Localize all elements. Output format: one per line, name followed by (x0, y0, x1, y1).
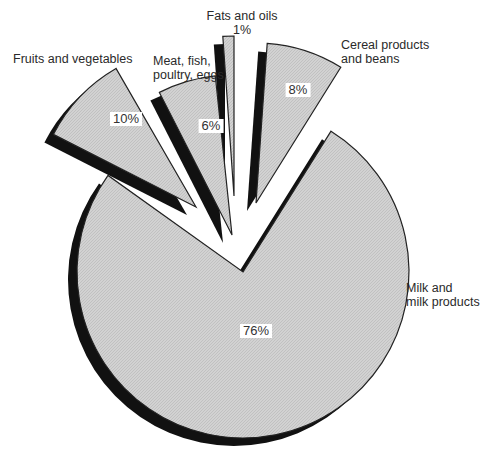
label-fruits-and-vegetables: Fruits and vegetables (13, 52, 133, 66)
label-cereal-line2: and beans (341, 52, 429, 66)
label-meat-line1: Meat, fish, (153, 54, 224, 68)
label-fats-line1: Fats and oils (205, 9, 279, 23)
label-fruits-line1: Fruits and vegetables (13, 52, 133, 66)
label-meat-fish-poultry-eggs: Meat, fish, poultry, eggs (153, 54, 224, 82)
pct-meat: 6% (199, 119, 224, 133)
label-meat-line2: poultry, eggs (153, 68, 224, 82)
pie-chart (0, 0, 490, 456)
label-milk-line1: Milk and (406, 281, 480, 295)
pct-milk: 76% (240, 324, 272, 338)
pct-cereal: 8% (286, 83, 311, 97)
label-cereal-products-and-beans: Cereal products and beans (341, 38, 429, 66)
label-milk-line2: milk products (406, 295, 480, 309)
label-fats-pct: 1% (205, 23, 279, 37)
pct-fruits: 10% (110, 112, 142, 126)
label-fats-and-oils: Fats and oils 1% (205, 9, 279, 37)
label-cereal-line1: Cereal products (341, 38, 429, 52)
label-milk-and-milk-products: Milk and milk products (406, 281, 480, 309)
